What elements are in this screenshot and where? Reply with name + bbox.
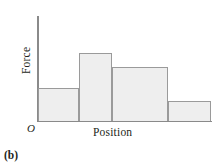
panel-label: (b) xyxy=(4,149,18,161)
bar-2 xyxy=(79,53,112,121)
bar-1 xyxy=(38,88,80,121)
origin-label: O xyxy=(27,122,35,134)
y-axis-label: Force xyxy=(20,54,32,74)
bar-4 xyxy=(168,101,211,121)
bar-chart-plot: Force Position O xyxy=(0,0,222,145)
x-axis-label: Position xyxy=(93,126,132,138)
force-position-figure: Force Position O (b) xyxy=(0,0,222,168)
bar-3 xyxy=(112,67,167,122)
